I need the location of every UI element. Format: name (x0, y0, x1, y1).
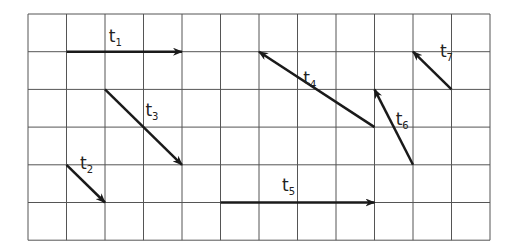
vector-t2: t2 (67, 153, 106, 203)
grid (28, 14, 490, 240)
vector-label: t1 (109, 26, 122, 48)
translation-vectors-diagram: t1t2t3t4t5t6t7 (0, 0, 508, 247)
vectors: t1t2t3t4t5t6t7 (67, 26, 453, 202)
vector-label: t2 (80, 153, 93, 175)
vector-label: t5 (282, 175, 295, 197)
vector-label: t4 (303, 68, 316, 90)
vector-t7: t7 (413, 41, 453, 89)
vector-label: t3 (145, 100, 158, 122)
vector-label: t6 (396, 109, 409, 131)
vector-t1: t1 (67, 26, 183, 51)
